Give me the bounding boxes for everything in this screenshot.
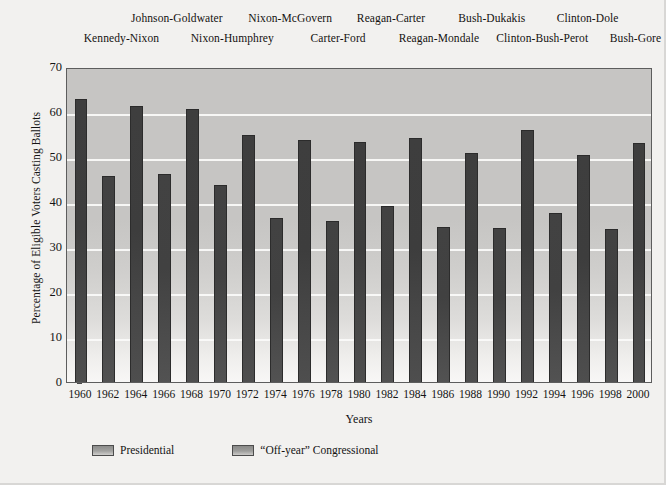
x-tick-label-1982: 1982: [373, 388, 401, 400]
bar-1962: [102, 176, 115, 382]
election-label-bottom-5: Bush-Gore: [610, 32, 661, 44]
bar-1966: [158, 174, 171, 382]
x-tick-label-1972: 1972: [233, 388, 261, 400]
bar-1972: [242, 135, 255, 382]
bar-1970: [214, 185, 227, 382]
y-tick-label-60: 60: [22, 105, 62, 120]
bar-1990: [493, 228, 506, 382]
x-tick-label-1960: 1960: [66, 388, 94, 400]
x-tick-label-1984: 1984: [401, 388, 429, 400]
bar-2000: [633, 143, 646, 382]
bar-1968: [186, 109, 199, 382]
bar-1996: [577, 155, 590, 382]
election-label-top-2: Reagan-Carter: [357, 12, 425, 24]
x-tick-label-1992: 1992: [512, 388, 540, 400]
election-label-bottom-1: Nixon-Humphrey: [191, 32, 274, 44]
y-tick-label-50: 50: [22, 150, 62, 165]
bar-1976: [298, 140, 311, 382]
y-tick-mark-0: [77, 383, 82, 384]
bar-1982: [381, 206, 394, 382]
bar-1960: [75, 99, 88, 382]
x-tick-label-1988: 1988: [457, 388, 485, 400]
y-axis-title: Percentage of Eligible Voters Casting Ba…: [30, 73, 42, 363]
plot-area: [66, 68, 652, 383]
bar-1988: [465, 153, 478, 383]
x-tick-label-1994: 1994: [540, 388, 568, 400]
x-tick-label-1970: 1970: [206, 388, 234, 400]
x-tick-label-1976: 1976: [289, 388, 317, 400]
election-label-top-0: Johnson-Goldwater: [131, 12, 223, 24]
x-tick-label-1996: 1996: [568, 388, 596, 400]
bars-layer: [67, 69, 651, 382]
bar-1998: [605, 229, 618, 382]
election-label-bottom-3: Reagan-Mondale: [399, 32, 480, 44]
election-label-bottom-2: Carter-Ford: [311, 32, 366, 44]
presidential-swatch: [92, 445, 114, 456]
x-tick-label-1978: 1978: [317, 388, 345, 400]
legend-item-presidential: Presidential: [92, 444, 174, 456]
y-tick-label-70: 70: [22, 60, 62, 75]
bar-1978: [326, 221, 339, 382]
bar-1964: [130, 106, 143, 382]
legend-label: “Off-year” Congressional: [260, 444, 378, 456]
x-axis-tick-labels: 1960196219641966196819701972197419761978…: [66, 388, 652, 406]
election-label-top-1: Nixon-McGovern: [248, 12, 332, 24]
x-tick-label-1980: 1980: [345, 388, 373, 400]
election-label-top-4: Clinton-Dole: [557, 12, 619, 24]
y-tick-label-40: 40: [22, 195, 62, 210]
chart-legend: Presidential“Off-year” Congressional: [92, 444, 379, 456]
y-tick-label-20: 20: [22, 285, 62, 300]
legend-label: Presidential: [120, 444, 174, 456]
x-tick-label-1962: 1962: [94, 388, 122, 400]
chart-page: Johnson-GoldwaterNixon-McGovernReagan-Ca…: [0, 0, 666, 485]
y-tick-label-30: 30: [22, 240, 62, 255]
election-label-top-3: Bush-Dukakis: [458, 12, 525, 24]
y-tick-label-0: 0: [22, 375, 62, 390]
x-tick-label-2000: 2000: [624, 388, 652, 400]
y-tick-label-10: 10: [22, 330, 62, 345]
bar-1986: [437, 227, 450, 382]
bar-1994: [549, 213, 562, 382]
x-tick-label-1986: 1986: [429, 388, 457, 400]
x-tick-label-1964: 1964: [122, 388, 150, 400]
election-label-bottom-4: Clinton-Bush-Perot: [496, 32, 588, 44]
x-tick-label-1968: 1968: [178, 388, 206, 400]
election-label-bottom-0: Kennedy-Nixon: [84, 32, 159, 44]
offyear-swatch: [232, 445, 254, 456]
x-tick-label-1974: 1974: [261, 388, 289, 400]
bar-1980: [354, 142, 367, 382]
election-annotations: Johnson-GoldwaterNixon-McGovernReagan-Ca…: [0, 12, 666, 54]
bar-1992: [521, 130, 534, 382]
x-tick-label-1990: 1990: [485, 388, 513, 400]
x-axis-title: Years: [66, 412, 652, 427]
legend-item-offyear: “Off-year” Congressional: [232, 444, 378, 456]
x-tick-label-1966: 1966: [150, 388, 178, 400]
x-tick-label-1998: 1998: [596, 388, 624, 400]
bar-1984: [409, 138, 422, 382]
bar-1974: [270, 218, 283, 382]
